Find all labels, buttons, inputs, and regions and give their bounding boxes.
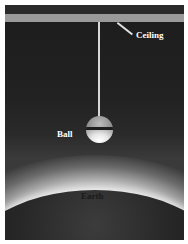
ball-lower-half (86, 130, 113, 143)
ball-label: Ball (57, 129, 73, 139)
ceiling-pointer-line (117, 22, 133, 35)
ceiling-top (5, 5, 184, 14)
ball (86, 116, 113, 143)
ceiling (5, 14, 184, 22)
string (98, 22, 100, 119)
diagram-frame: Ceiling Ball Earth (5, 5, 184, 240)
earth-label: Earth (81, 191, 104, 201)
ceiling-label: Ceiling (136, 30, 164, 40)
